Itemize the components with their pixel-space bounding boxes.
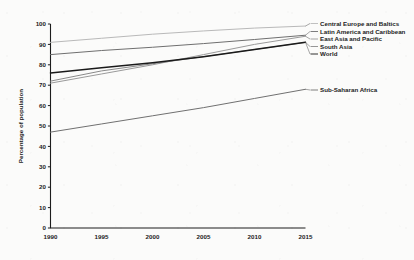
y-tick-label: 90 [39,41,46,48]
x-tick-label: 2000 [146,233,160,240]
x-tick-label: 2010 [248,233,262,240]
series-label: East Asia and Pacific [320,35,383,42]
y-tick-label: 40 [39,143,46,150]
y-tick-label: 60 [39,102,46,109]
series-label: Latin America and Caribbean [320,28,406,35]
series-lines [51,26,306,132]
leader-line [306,89,311,90]
x-tick-label: 1995 [95,233,109,240]
series-label: Sub-Saharan Africa [320,86,378,93]
series-line [51,35,306,54]
y-tick-label: 50 [39,122,46,129]
series-line [51,26,306,42]
x-tick-label: 2015 [299,233,313,240]
series-labels: Central Europe and BalticsLatin America … [306,20,406,94]
leader-line [306,32,311,36]
leader-line [306,24,311,27]
x-tick-label: 2005 [197,233,211,240]
y-axis-ticks: 0102030405060708090100 [36,20,51,231]
y-axis-title-group: Percentage of population [17,89,24,163]
leader-line [306,36,311,39]
series-label: World [320,50,338,57]
chart-figure: Percentage of population 010203040506070… [0,0,414,260]
line-chart-svg: Percentage of population 010203040506070… [0,0,414,260]
y-tick-label: 10 [39,204,46,211]
series-line [51,89,306,132]
x-tick-label: 1990 [44,233,58,240]
series-line [51,42,306,73]
y-tick-label: 70 [39,81,46,88]
series-label: Central Europe and Baltics [320,20,400,27]
y-tick-label: 100 [36,20,47,27]
y-tick-label: 0 [43,224,47,231]
y-tick-label: 80 [39,61,46,68]
y-tick-label: 30 [39,163,46,170]
y-tick-label: 20 [39,183,46,190]
y-axis-title: Percentage of population [17,89,24,163]
series-label: South Asia [320,43,353,50]
x-axis-ticks: 199019952000200520102015 [44,233,313,240]
